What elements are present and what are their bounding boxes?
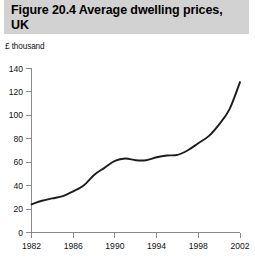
y-tick-label-100: 100 — [9, 110, 24, 120]
y-tick-label-80: 80 — [13, 134, 23, 144]
line-chart-svg: 140 120 100 80 60 40 20 0 1982 1986 1990 — [0, 0, 255, 258]
plot-area: 140 120 100 80 60 40 20 0 1982 1986 1990 — [0, 0, 255, 258]
x-tick-label-1990: 1990 — [105, 241, 124, 251]
figure-container: Figure 20.4 Average dwelling prices, UK … — [0, 0, 255, 258]
data-series-line — [32, 82, 241, 204]
x-tick-label-1998: 1998 — [189, 241, 208, 251]
x-tick-label-1994: 1994 — [147, 241, 166, 251]
y-tick-label-0: 0 — [18, 228, 23, 238]
x-tick-label-2002: 2002 — [230, 241, 249, 251]
y-tick-label-60: 60 — [13, 157, 23, 167]
y-tick-label-140: 140 — [9, 64, 24, 74]
y-axis-group: 140 120 100 80 60 40 20 0 — [9, 64, 32, 238]
x-tick-label-1982: 1982 — [22, 241, 41, 251]
x-axis-group: 1982 1986 1990 1994 1998 2002 — [22, 233, 250, 252]
y-tick-label-120: 120 — [9, 87, 24, 97]
x-tick-label-1986: 1986 — [64, 241, 83, 251]
y-tick-label-20: 20 — [13, 204, 23, 214]
y-tick-label-40: 40 — [13, 181, 23, 191]
